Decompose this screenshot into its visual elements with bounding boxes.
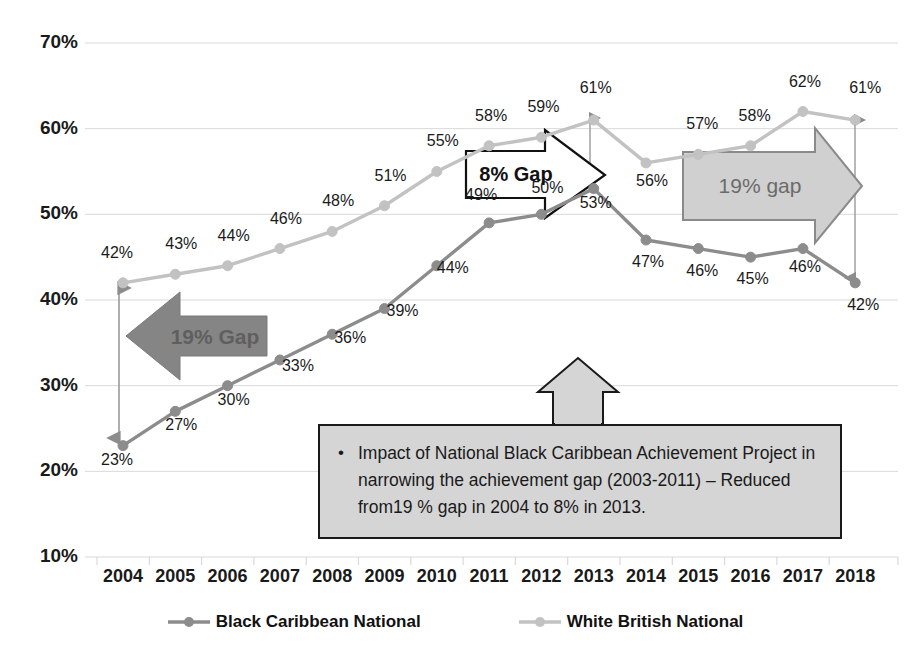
data-point-label: 59% bbox=[515, 98, 571, 116]
data-point-label: 42% bbox=[89, 244, 145, 262]
x-axis-tick-label: 2012 bbox=[511, 566, 571, 587]
callout-box: • Impact of National Black Caribbean Ach… bbox=[318, 424, 842, 539]
data-point-label: 55% bbox=[415, 132, 471, 150]
x-axis-tick-label: 2008 bbox=[302, 566, 362, 587]
data-point-label: 44% bbox=[206, 227, 262, 245]
legend-marker-icon bbox=[166, 614, 212, 630]
data-point-label: 47% bbox=[620, 253, 676, 271]
data-point-label: 46% bbox=[258, 210, 314, 228]
x-axis-tick-label: 2015 bbox=[668, 566, 728, 587]
x-axis-tick-label: 2010 bbox=[407, 566, 467, 587]
data-point-label: 57% bbox=[674, 115, 730, 133]
x-axis-tick-label: 2013 bbox=[564, 566, 624, 587]
data-point-label: 46% bbox=[674, 262, 730, 280]
x-axis-tick-label: 2018 bbox=[825, 566, 885, 587]
data-point-label: 46% bbox=[777, 258, 833, 276]
y-axis-tick-label: 60% bbox=[18, 117, 78, 139]
x-axis-tick-label: 2007 bbox=[250, 566, 310, 587]
data-point-label: 58% bbox=[463, 107, 519, 125]
data-point-label: 49% bbox=[453, 186, 509, 204]
data-point-label: 62% bbox=[777, 73, 833, 91]
legend-item-label: Black Caribbean National bbox=[216, 612, 421, 632]
data-point-label: 23% bbox=[89, 451, 145, 469]
callout-text: Impact of National Black Caribbean Achie… bbox=[358, 440, 824, 521]
data-point-label: 27% bbox=[153, 416, 209, 434]
x-axis-tick-label: 2017 bbox=[773, 566, 833, 587]
gap-arrow-right-label: 19% gap bbox=[700, 174, 820, 198]
chart-legend: Black Caribbean NationalWhite British Na… bbox=[0, 612, 909, 632]
data-point-label: 58% bbox=[727, 107, 783, 125]
x-axis-tick-label: 2009 bbox=[355, 566, 415, 587]
x-axis-ticks bbox=[97, 557, 898, 565]
data-point-label: 43% bbox=[153, 235, 209, 253]
y-axis-tick-label: 10% bbox=[18, 545, 78, 567]
legend-item[interactable]: Black Caribbean National bbox=[166, 612, 421, 632]
callout-pointer-arrow bbox=[538, 358, 618, 428]
y-axis-tick-label: 20% bbox=[18, 459, 78, 481]
x-axis-tick-label: 2004 bbox=[93, 566, 153, 587]
line-chart: 70%60%50%40%30%20%10% 200420052006200720… bbox=[0, 0, 909, 665]
y-axis-tick-label: 40% bbox=[18, 288, 78, 310]
legend-item-label: White British National bbox=[567, 612, 744, 632]
data-point-label: 33% bbox=[270, 357, 326, 375]
x-axis-tick-label: 2016 bbox=[721, 566, 781, 587]
data-point-label: 39% bbox=[375, 302, 431, 320]
y-axis-tick-label: 70% bbox=[18, 31, 78, 53]
x-axis-tick-label: 2006 bbox=[198, 566, 258, 587]
y-axis-tick-label: 30% bbox=[18, 374, 78, 396]
data-point-label: 51% bbox=[363, 167, 419, 185]
data-point-label: 61% bbox=[837, 79, 893, 97]
data-point-label: 30% bbox=[206, 391, 262, 409]
data-point-label: 56% bbox=[624, 172, 680, 190]
x-axis-tick-label: 2014 bbox=[616, 566, 676, 587]
x-axis-tick-label: 2005 bbox=[145, 566, 205, 587]
legend-item[interactable]: White British National bbox=[517, 612, 744, 632]
y-axis-tick-label: 50% bbox=[18, 202, 78, 224]
data-point-label: 44% bbox=[425, 259, 481, 277]
legend-marker-icon bbox=[517, 614, 563, 630]
data-point-label: 36% bbox=[322, 329, 378, 347]
data-point-label: 45% bbox=[725, 270, 781, 288]
data-point-label: 61% bbox=[568, 79, 624, 97]
data-point-label: 48% bbox=[310, 192, 366, 210]
x-axis-tick-label: 2011 bbox=[459, 566, 519, 587]
data-point-label: 53% bbox=[568, 194, 624, 212]
data-point-label: 42% bbox=[835, 296, 891, 314]
callout-bullet: • bbox=[338, 440, 344, 521]
gap-arrow-middle-label: 8% Gap bbox=[472, 163, 560, 186]
gap-arrow-left-label: 19% Gap bbox=[160, 325, 270, 349]
